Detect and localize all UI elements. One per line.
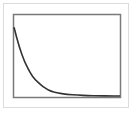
plot-frame — [14, 15, 121, 98]
line-chart — [0, 0, 140, 114]
